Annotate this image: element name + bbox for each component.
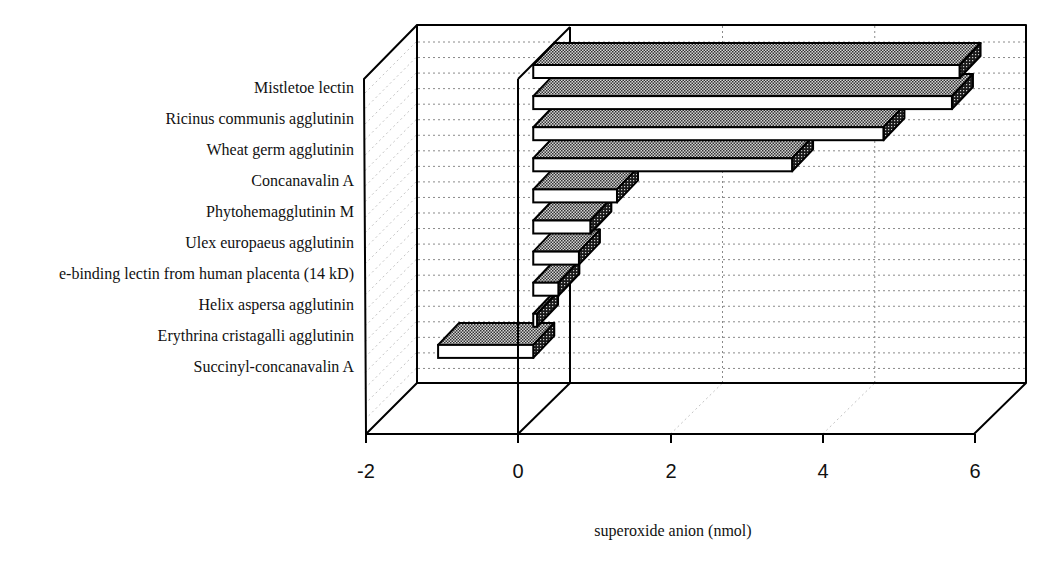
bar-front-face (533, 283, 558, 296)
category-label: Mistletoe lectin (254, 79, 354, 96)
category-label: e-binding lectin from human placenta (14… (59, 265, 354, 283)
side-wall-gridline (365, 73, 416, 124)
floor-gridline (823, 383, 875, 434)
category-label: Ulex europaeus agglutinin (185, 234, 354, 252)
bar-front-face (533, 314, 537, 327)
zero-plane-floor-line (518, 383, 570, 434)
category-label: Helix aspersa agglutinin (198, 296, 354, 314)
side-wall-gridline (365, 120, 416, 171)
side-wall-gridline (365, 322, 416, 373)
side-wall-gridline (365, 337, 416, 388)
side-wall-gridline (365, 58, 416, 109)
bar (533, 43, 980, 78)
side-wall-gridline (365, 260, 416, 311)
bar (533, 136, 813, 171)
x-tick-label: 6 (969, 460, 980, 482)
side-wall-gridline (365, 368, 416, 419)
category-label: Erythrina cristagalli agglutinin (158, 327, 354, 345)
bar-front-face (533, 221, 590, 234)
bar-top-face (533, 43, 980, 65)
side-wall-gridline (365, 275, 416, 326)
bar-front-face (533, 127, 883, 140)
x-axis-title: superoxide anion (nmol) (594, 522, 751, 540)
bars (438, 43, 980, 358)
floor-gridline (671, 383, 723, 434)
side-wall-gridline (365, 182, 416, 233)
x-axis-tick-labels: -2 0 2 4 6 (357, 460, 980, 482)
x-tick-label: 2 (665, 460, 676, 482)
side-wall-outline (364, 25, 417, 434)
bar-front-face (533, 189, 617, 202)
category-label: Succinyl-concanavalin A (194, 358, 355, 376)
category-label: Phytohemagglutinin M (206, 203, 354, 221)
side-wall-gridline (365, 166, 416, 217)
category-label: Ricinus communis agglutinin (166, 110, 354, 128)
bar-front-face (533, 96, 952, 109)
bar (533, 167, 638, 202)
category-label: Concanavalin A (251, 172, 354, 189)
category-label: Wheat germ agglutinin (206, 141, 354, 159)
side-wall-gridline (365, 213, 416, 264)
category-labels: Mistletoe lectin Ricinus communis agglut… (59, 79, 354, 376)
side-wall-gridline (365, 229, 416, 280)
bar-chart-3d: -2 0 2 4 6 Mistletoe lectin Ricinus comm… (0, 0, 1054, 564)
side-wall-gridline (365, 135, 416, 186)
side-wall-gridline (365, 104, 416, 155)
side-wall-gridline (365, 291, 416, 342)
x-tick-label: 4 (817, 460, 828, 482)
side-wall-gridline (365, 244, 416, 295)
side-wall-gridline (365, 151, 416, 202)
bar-front-face (533, 252, 579, 265)
bar (533, 261, 579, 296)
x-tick-label: -2 (357, 460, 375, 482)
x-axis-ticks (366, 434, 975, 443)
side-wall-gridline (365, 89, 416, 140)
x-tick-label: 0 (512, 460, 523, 482)
bar (533, 105, 904, 140)
bar (533, 74, 973, 109)
bar (438, 323, 554, 358)
bar-front-face (533, 158, 792, 171)
side-wall-gridline (365, 306, 416, 357)
bar-front-face (533, 65, 959, 78)
side-wall-gridline (365, 353, 416, 404)
chart-page: -2 0 2 4 6 Mistletoe lectin Ricinus comm… (0, 0, 1054, 564)
side-wall-gridline (365, 42, 416, 93)
side-wall-gridline (365, 197, 416, 248)
